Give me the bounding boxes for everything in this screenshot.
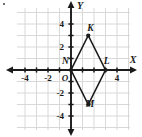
vertex-point-k	[86, 33, 90, 37]
vertex-label-m: M	[85, 99, 95, 109]
grid-lines	[17, 8, 130, 130]
vertex-point-n	[69, 68, 73, 72]
artifact-speck	[3, 3, 5, 5]
vertex-label-k: K	[86, 23, 94, 33]
y-axis-arrow-up	[68, 1, 75, 8]
y-axis-label: Y	[77, 0, 84, 11]
y-tick-label: -2	[57, 88, 65, 98]
coordinate-plane-figure: -4-2442-2-4OYXKLMN	[0, 0, 142, 137]
x-axis-arrow-right	[130, 67, 137, 74]
tick-labels: -4-2442-2-4OYX	[21, 0, 136, 121]
x-axis-label: X	[129, 54, 137, 65]
y-axis-arrow-down	[68, 129, 75, 136]
y-tick-label: 2	[60, 42, 65, 52]
x-axis-arrow-left	[6, 67, 13, 74]
vertex-label-n: N	[61, 56, 70, 66]
coordinate-plane-svg: -4-2442-2-4OYXKLMN	[0, 0, 142, 137]
y-tick-label: 4	[60, 19, 65, 29]
vertex-point-l	[103, 68, 107, 72]
x-tick-label: -4	[21, 73, 29, 83]
y-tick-label: -4	[57, 111, 65, 121]
x-tick-label: -2	[44, 73, 52, 83]
origin-label: O	[62, 73, 69, 83]
vertex-label-l: L	[103, 56, 110, 66]
x-tick-label: 4	[115, 73, 120, 83]
